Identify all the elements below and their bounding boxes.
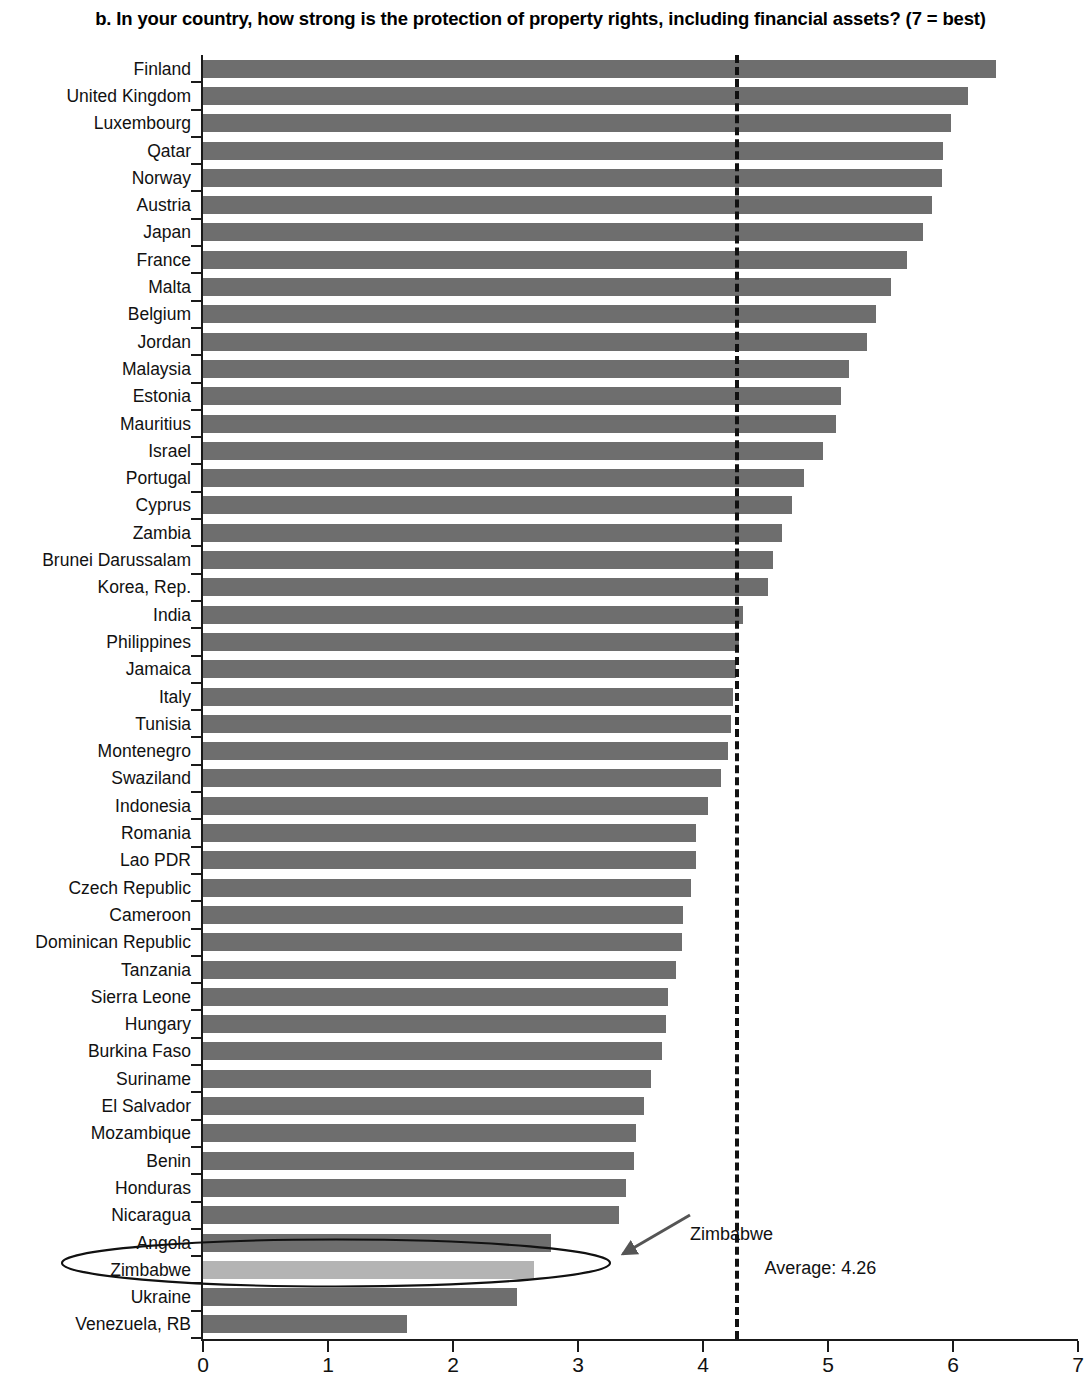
x-axis-tick (1077, 1341, 1079, 1352)
x-axis-tick-label: 7 (1048, 1353, 1088, 1377)
x-axis-tick (452, 1341, 454, 1352)
chart-title: b. In your country, how strong is the pr… (0, 8, 1081, 30)
zimbabwe-callout-label: Zimbabwe (690, 1224, 773, 1245)
x-axis-tick-label: 0 (173, 1353, 233, 1377)
x-axis-tick-label: 5 (798, 1353, 858, 1377)
x-axis-tick-label: 2 (423, 1353, 483, 1377)
x-axis-tick (202, 1341, 204, 1352)
x-axis-tick (327, 1341, 329, 1352)
x-axis-tick (952, 1341, 954, 1352)
x-axis-tick-label: 1 (298, 1353, 358, 1377)
x-axis-tick (702, 1341, 704, 1352)
chart-plot-area: FinlandUnited KingdomLuxembourgQatarNorw… (0, 55, 1081, 1345)
x-axis-tick-label: 3 (548, 1353, 608, 1377)
x-axis-tick-label: 6 (923, 1353, 983, 1377)
zimbabwe-callout-arrow (0, 55, 1081, 1345)
x-axis-tick (827, 1341, 829, 1352)
x-axis-tick (577, 1341, 579, 1352)
x-axis-tick-label: 4 (673, 1353, 733, 1377)
